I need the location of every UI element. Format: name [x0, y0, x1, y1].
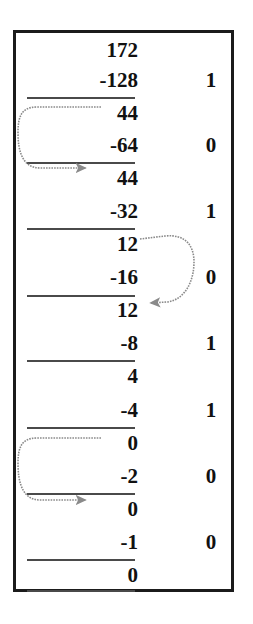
subtraction-row: -321: [0, 197, 253, 225]
binary-subtraction-figure: 172-128144-64044-32112-16012-814-410-200…: [0, 0, 253, 624]
row-operand: -32: [0, 197, 138, 225]
row-operand: -1: [0, 528, 138, 556]
row-operand: -16: [0, 263, 138, 291]
row-operand: 4: [0, 362, 138, 390]
row-operand: 0: [0, 561, 138, 589]
row-operand: -64: [0, 131, 138, 159]
subtraction-rule-line: [27, 590, 135, 592]
subtraction-row: 0: [0, 429, 253, 457]
row-result-bit: 0: [196, 263, 226, 291]
subtraction-row: 12: [0, 296, 253, 324]
subtraction-row: 12: [0, 230, 253, 258]
subtraction-row: 0: [0, 495, 253, 523]
row-result-bit: 1: [196, 66, 226, 94]
row-result-bit: 1: [196, 329, 226, 357]
row-operand: 44: [0, 164, 138, 192]
row-operand: -8: [0, 329, 138, 357]
row-operand: 0: [0, 429, 138, 457]
row-result-bit: 0: [196, 131, 226, 159]
subtraction-row: -20: [0, 462, 253, 490]
subtraction-row: -81: [0, 329, 253, 357]
subtraction-row: -10: [0, 528, 253, 556]
row-result-bit: 1: [196, 396, 226, 424]
subtraction-row: -1281: [0, 66, 253, 94]
row-operand: 172: [0, 36, 138, 64]
subtraction-row: -41: [0, 396, 253, 424]
subtraction-row: 0: [0, 561, 253, 589]
row-operand: 12: [0, 230, 138, 258]
row-result-bit: 0: [196, 528, 226, 556]
subtraction-row: 44: [0, 99, 253, 127]
row-operand: 0: [0, 495, 138, 523]
row-result-bit: 0: [196, 462, 226, 490]
subtraction-row: 172: [0, 36, 253, 64]
subtraction-row: -160: [0, 263, 253, 291]
row-operand: 44: [0, 99, 138, 127]
row-operand: 12: [0, 296, 138, 324]
subtraction-row: 4: [0, 362, 253, 390]
row-result-bit: 1: [196, 197, 226, 225]
row-operand: -128: [0, 66, 138, 94]
subtraction-row: 44: [0, 164, 253, 192]
row-operand: -4: [0, 396, 138, 424]
row-operand: -2: [0, 462, 138, 490]
subtraction-row: -640: [0, 131, 253, 159]
